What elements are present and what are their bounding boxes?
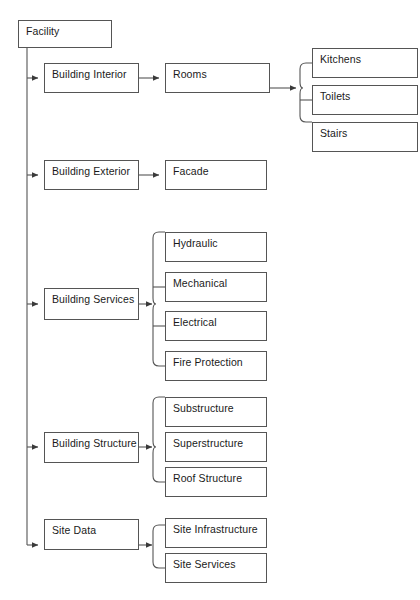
node-building-exterior[interactable]: Building Exterior: [44, 160, 139, 190]
node-label: Rooms: [173, 68, 207, 81]
node-fire-protection[interactable]: Fire Protection: [165, 351, 267, 381]
node-label: Stairs: [320, 127, 347, 140]
bracket-site-data: [153, 525, 165, 568]
facility-breakdown-diagram: Facility Building Interior Building Exte…: [0, 0, 420, 600]
node-site-data[interactable]: Site Data: [44, 519, 139, 550]
node-label: Facility: [26, 25, 59, 38]
bracket-services: [153, 232, 165, 366]
node-label: Building Structure: [52, 437, 137, 450]
node-label: Fire Protection: [173, 356, 243, 369]
node-label: Roof Structure: [173, 472, 242, 485]
node-mechanical[interactable]: Mechanical: [165, 272, 267, 302]
node-building-structure[interactable]: Building Structure: [44, 432, 139, 463]
node-label: Superstructure: [173, 437, 243, 450]
node-facade[interactable]: Facade: [165, 160, 267, 190]
node-label: Site Infrastructure: [173, 523, 258, 536]
node-kitchens[interactable]: Kitchens: [312, 48, 418, 78]
node-hydraulic[interactable]: Hydraulic: [165, 232, 267, 262]
node-label: Building Interior: [52, 68, 127, 81]
node-label: Toilets: [320, 90, 350, 103]
node-site-infrastructure[interactable]: Site Infrastructure: [165, 518, 267, 548]
bracket-structure: [153, 397, 165, 482]
node-label: Building Services: [52, 293, 134, 306]
node-toilets[interactable]: Toilets: [312, 85, 418, 115]
node-roof-structure[interactable]: Roof Structure: [165, 467, 267, 497]
node-label: Mechanical: [173, 277, 227, 290]
node-facility[interactable]: Facility: [18, 20, 112, 48]
node-stairs[interactable]: Stairs: [312, 122, 418, 152]
node-electrical[interactable]: Electrical: [165, 311, 267, 341]
node-rooms[interactable]: Rooms: [165, 63, 270, 93]
node-label: Electrical: [173, 316, 217, 329]
node-label: Kitchens: [320, 53, 361, 66]
node-site-services[interactable]: Site Services: [165, 553, 267, 583]
bracket-rooms: [300, 63, 312, 122]
node-label: Site Data: [52, 524, 96, 537]
node-label: Substructure: [173, 402, 234, 415]
node-building-interior[interactable]: Building Interior: [44, 63, 139, 93]
node-building-services[interactable]: Building Services: [44, 288, 139, 320]
node-label: Site Services: [173, 558, 236, 571]
node-substructure[interactable]: Substructure: [165, 397, 267, 427]
node-label: Building Exterior: [52, 165, 130, 178]
node-label: Hydraulic: [173, 237, 218, 250]
node-label: Facade: [173, 165, 209, 178]
node-superstructure[interactable]: Superstructure: [165, 432, 267, 462]
